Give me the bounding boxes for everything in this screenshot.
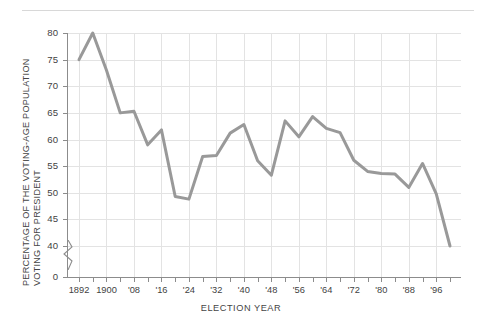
x-tick-mark-1992 — [423, 278, 424, 282]
x-tick-mark-1980 — [381, 278, 382, 282]
x-tick-label-1892: 1892 — [69, 285, 90, 295]
y-tick-mark-0 — [63, 277, 67, 278]
x-tick-mark-1920 — [175, 278, 176, 282]
x-tick-label-1924: '24 — [183, 285, 195, 295]
x-tick-mark-1968 — [340, 278, 341, 282]
x-tick-mark-1924 — [189, 278, 190, 282]
x-tick-label-1916: '16 — [155, 285, 167, 295]
x-tick-mark-1944 — [258, 278, 259, 282]
x-tick-label-1988: '88 — [403, 285, 415, 295]
x-tick-mark-1948 — [271, 278, 272, 282]
y-tick-label-wrap-0: 0 — [34, 271, 58, 283]
x-tick-label-1972: '72 — [348, 285, 360, 295]
x-tick-label-1940: '40 — [238, 285, 250, 295]
x-tick-mark-1928 — [203, 278, 204, 282]
y-tick-mark-70 — [63, 86, 67, 87]
x-tick-mark-1960 — [313, 278, 314, 282]
chart-figure: PERCENTAGE OF THE VOTING-AGE POPULATION … — [0, 0, 482, 327]
y-tick-mark-55 — [63, 166, 67, 167]
x-tick-mark-1936 — [230, 278, 231, 282]
y-tick-label-wrap-55: 55 — [34, 160, 58, 172]
x-axis-line — [67, 277, 461, 278]
y-tick-label-wrap-75: 75 — [34, 54, 58, 66]
x-tick-mark-1900 — [106, 278, 107, 282]
x-tick-mark-1996 — [436, 278, 437, 282]
x-tick-mark-1916 — [161, 278, 162, 282]
y-tick-label-65: 65 — [34, 107, 58, 118]
y-tick-label-50: 50 — [34, 187, 58, 198]
y-tick-label-75: 75 — [34, 54, 58, 65]
y-tick-mark-65 — [63, 113, 67, 114]
x-tick-label-1980: '80 — [375, 285, 387, 295]
x-tick-label-1964: '64 — [320, 285, 332, 295]
y-tick-label-0: 0 — [34, 271, 58, 282]
y-tick-label-wrap-45: 45 — [34, 213, 58, 225]
y-tick-label-60: 60 — [34, 134, 58, 145]
x-tick-mark-1932 — [216, 278, 217, 282]
x-tick-label-1956: '56 — [293, 285, 305, 295]
y-tick-mark-80 — [63, 33, 67, 34]
x-tick-label-1932: '32 — [210, 285, 222, 295]
y-tick-mark-60 — [63, 140, 67, 141]
y-tick-label-wrap-50: 50 — [34, 187, 58, 199]
x-tick-label-1996: '96 — [430, 285, 442, 295]
x-tick-mark-1940 — [244, 278, 245, 282]
x-tick-mark-1896 — [93, 278, 94, 282]
plot-area — [68, 33, 461, 277]
y-tick-label-wrap-70: 70 — [34, 80, 58, 92]
y-tick-mark-50 — [63, 193, 67, 194]
y-axis-title: PERCENTAGE OF THE VOTING-AGE POPULATION … — [0, 0, 40, 300]
x-tick-mark-1984 — [395, 278, 396, 282]
y-tick-label-wrap-40: 40 — [34, 240, 58, 252]
y-tick-label-wrap-65: 65 — [34, 107, 58, 119]
y-tick-label-70: 70 — [34, 80, 58, 91]
x-tick-mark-1972 — [354, 278, 355, 282]
x-tick-mark-1976 — [368, 278, 369, 282]
top-divider-rule — [22, 10, 474, 11]
x-tick-mark-1892 — [79, 278, 80, 282]
x-tick-mark-1964 — [326, 278, 327, 282]
y-axis-title-line1: PERCENTAGE OF THE VOTING-AGE POPULATION — [21, 58, 33, 286]
x-tick-mark-1988 — [409, 278, 410, 282]
series-turnout-line — [68, 33, 461, 277]
x-axis-title: ELECTION YEAR — [0, 303, 482, 313]
x-tick-mark-1956 — [299, 278, 300, 282]
x-tick-mark-2000 — [450, 278, 451, 282]
y-tick-label-wrap-60: 60 — [34, 134, 58, 146]
x-tick-mark-1908 — [134, 278, 135, 282]
x-tick-label-1908: '08 — [128, 285, 140, 295]
x-tick-mark-1912 — [148, 278, 149, 282]
y-tick-label-wrap-80: 80 — [34, 27, 58, 39]
x-tick-mark-1952 — [285, 278, 286, 282]
x-tick-label-1900: 1900 — [96, 285, 117, 295]
y-tick-label-40: 40 — [34, 240, 58, 251]
y-tick-label-45: 45 — [34, 213, 58, 224]
x-tick-label-1948: '48 — [265, 285, 277, 295]
y-tick-mark-45 — [63, 219, 67, 220]
y-axis-break-symbol — [60, 240, 76, 270]
y-tick-label-55: 55 — [34, 160, 58, 171]
y-tick-mark-75 — [63, 60, 67, 61]
x-tick-mark-1904 — [120, 278, 121, 282]
y-tick-label-80: 80 — [34, 27, 58, 38]
